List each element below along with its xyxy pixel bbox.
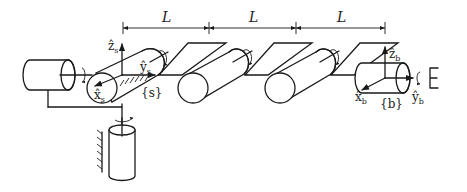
axis-y-b-label: ŷb bbox=[411, 90, 424, 106]
frame-b-label: {b} bbox=[380, 97, 403, 111]
axis-z-s-label: ẑs bbox=[108, 39, 118, 55]
dimension-label-2: L bbox=[248, 9, 258, 25]
robot-arm-diagram: L L L bbox=[0, 0, 467, 192]
gripper-icon bbox=[430, 68, 438, 88]
base-joint-cylinder bbox=[48, 88, 135, 181]
ground-hatch bbox=[97, 130, 102, 172]
dimension-lines: L L L bbox=[123, 9, 385, 34]
shoulder-cylinder bbox=[23, 60, 92, 90]
dimension-label-3: L bbox=[336, 9, 346, 25]
frame-s-label: {s} bbox=[141, 86, 162, 100]
dimension-label-1: L bbox=[161, 9, 171, 25]
axis-z-b-label: ẑb bbox=[389, 47, 400, 63]
